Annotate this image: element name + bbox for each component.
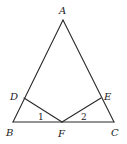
label-A: A	[58, 5, 66, 16]
angle-label-1: 1	[38, 112, 44, 122]
label-E: E	[103, 91, 112, 102]
label-F: F	[57, 128, 66, 139]
label-D: D	[9, 91, 18, 102]
label-C: C	[111, 127, 119, 138]
geometry-diagram: A B C D E F 1 2	[0, 0, 127, 144]
angle-label-2: 2	[81, 112, 87, 122]
label-B: B	[5, 127, 13, 138]
segment-AC	[63, 20, 114, 122]
